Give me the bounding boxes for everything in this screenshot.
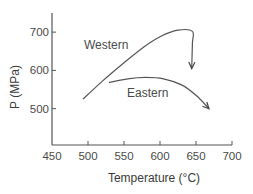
series-group: WesternEastern (83, 30, 209, 109)
x-ticks: 450500550600650700 (42, 141, 241, 162)
x-tick-label: 650 (186, 150, 205, 162)
y-axis-label: P (MPa) (8, 65, 22, 109)
x-tick-label: 700 (222, 150, 241, 162)
axes (52, 13, 232, 145)
x-tick-label: 500 (78, 150, 97, 162)
y-tick-label: 600 (30, 64, 49, 76)
x-tick-label: 600 (150, 150, 169, 162)
x-tick-label: 450 (42, 150, 61, 162)
chart: 450500550600650700 500600700 WesternEast… (0, 0, 253, 194)
series-eastern: Eastern (109, 77, 209, 108)
series-label-eastern: Eastern (127, 86, 168, 100)
y-tick-label: 500 (30, 103, 49, 115)
y-tick-label: 700 (30, 26, 49, 38)
series-label-western: Western (84, 38, 128, 52)
x-tick-label: 550 (114, 150, 133, 162)
x-axis-label: Temperature (°C) (108, 171, 200, 185)
